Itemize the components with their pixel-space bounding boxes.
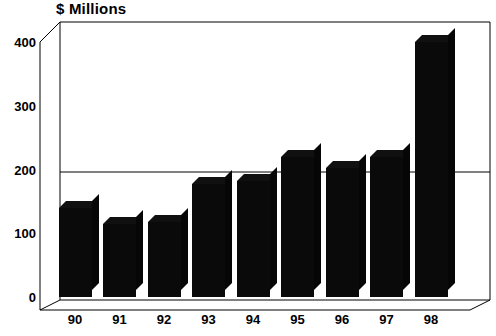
bar-side-face	[359, 154, 366, 290]
bar-front-face	[59, 208, 92, 297]
bar-front-face	[326, 168, 359, 297]
bar-front-face	[281, 157, 314, 297]
x-axis-tick-label: 95	[290, 312, 304, 327]
x-axis-tick-label: 90	[68, 312, 82, 327]
bar-front-face	[415, 42, 448, 297]
bar-chart: $ Millions 0100200300400 909192939495969…	[0, 0, 496, 336]
x-axis-tick-label: 91	[112, 312, 126, 327]
bar-front-face	[192, 184, 225, 297]
bar-front-face	[103, 224, 136, 297]
x-axis-tick-label: 92	[157, 312, 171, 327]
x-axis-tick-label: 98	[424, 312, 438, 327]
x-axis-labels: 909192939495969798	[0, 312, 496, 334]
bar-side-face	[403, 143, 410, 290]
x-axis-tick-label: 97	[379, 312, 393, 327]
bar-side-face	[448, 28, 455, 290]
bar-front-face	[237, 181, 270, 297]
x-axis-tick-label: 94	[246, 312, 260, 327]
bar-side-face	[92, 194, 99, 290]
bar-side-face	[136, 210, 143, 290]
bar-side-face	[181, 208, 188, 290]
bar-side-face	[225, 170, 232, 290]
x-axis-tick-label: 93	[201, 312, 215, 327]
bar-front-face	[370, 157, 403, 297]
bars-layer	[0, 0, 496, 336]
bar-front-face	[148, 222, 181, 297]
x-axis-tick-label: 96	[335, 312, 349, 327]
bar-side-face	[270, 167, 277, 290]
bar-side-face	[314, 143, 321, 290]
